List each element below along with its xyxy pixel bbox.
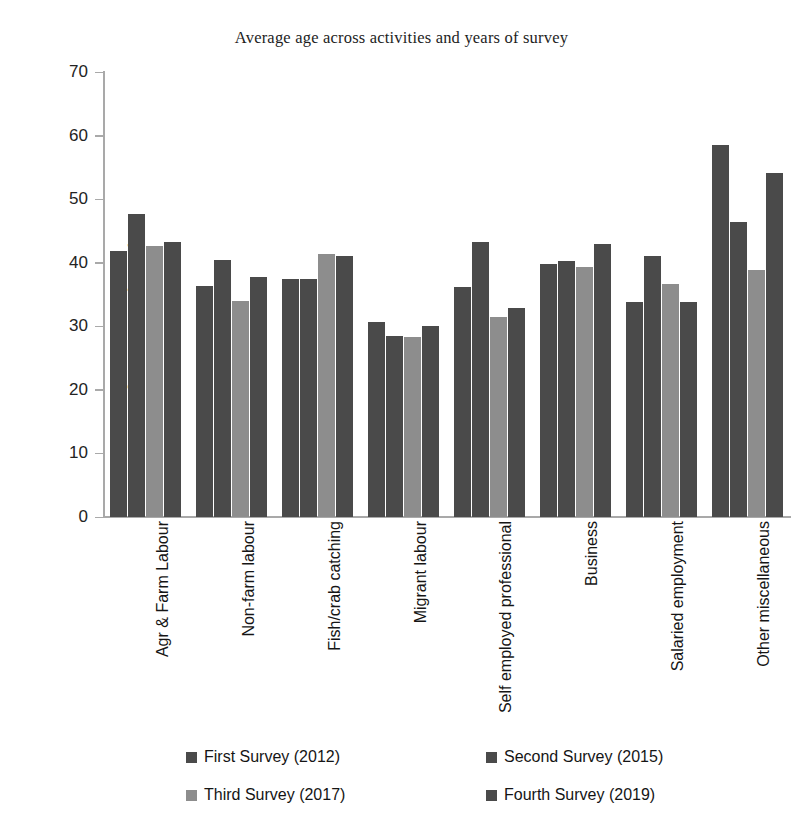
x-axis-category-label: Business <box>583 521 601 586</box>
legend-item[interactable]: Second Survey (2015) <box>486 748 663 766</box>
x-axis-label-cell: Agr & Farm Labour <box>103 521 189 721</box>
y-axis-tick-value: 60 <box>30 126 88 146</box>
bar[interactable] <box>540 264 557 517</box>
x-axis-label-cell: Salaried employment <box>618 521 704 721</box>
bar[interactable] <box>250 277 267 517</box>
y-axis-tick-value: 50 <box>30 189 88 209</box>
x-axis-label-cell: Business <box>532 521 618 721</box>
x-axis-labels: Agr & Farm LabourNon-farm labourFish/cra… <box>103 521 790 721</box>
bar[interactable] <box>336 256 353 517</box>
legend-label: First Survey (2012) <box>204 748 340 766</box>
legend-item[interactable]: Fourth Survey (2019) <box>486 786 655 804</box>
bar[interactable] <box>594 244 611 517</box>
y-axis-tick <box>95 72 103 74</box>
bar[interactable] <box>232 301 249 517</box>
y-axis-tick <box>95 262 103 264</box>
bar-group <box>275 72 361 517</box>
bar[interactable] <box>680 302 697 518</box>
bar[interactable] <box>368 322 385 517</box>
bar-group <box>704 72 790 517</box>
bar[interactable] <box>644 256 661 517</box>
y-axis-tick-value: 0 <box>30 507 88 527</box>
y-axis-tick-value: 40 <box>30 253 88 273</box>
y-axis-tick-value: 20 <box>30 380 88 400</box>
legend-swatch <box>186 752 197 763</box>
bar[interactable] <box>422 326 439 517</box>
y-axis-tick <box>95 389 103 391</box>
bar-group <box>103 72 189 517</box>
x-axis-category-label: Agr & Farm Labour <box>154 521 172 657</box>
y-axis-tick-value: 10 <box>30 443 88 463</box>
x-axis-category-label: Other miscellaneous <box>755 521 773 667</box>
bar-group <box>532 72 618 517</box>
legend-label: Second Survey (2015) <box>504 748 663 766</box>
bar[interactable] <box>472 242 489 517</box>
x-axis-category-label: Non-farm labour <box>240 521 258 637</box>
bar-group <box>189 72 275 517</box>
chart-title: Average age across activities and years … <box>0 28 803 48</box>
y-axis-tick <box>95 453 103 455</box>
y-axis-tick-value: 70 <box>30 62 88 82</box>
bar[interactable] <box>766 173 783 517</box>
x-axis-label-cell: Self employed professional <box>447 521 533 721</box>
bar[interactable] <box>196 286 213 517</box>
bar[interactable] <box>712 145 729 517</box>
bar[interactable] <box>508 308 525 517</box>
bar[interactable] <box>404 337 421 517</box>
legend-label: Fourth Survey (2019) <box>504 786 655 804</box>
bar-chart: Average age across activities and years … <box>0 0 803 836</box>
legend-item[interactable]: First Survey (2012) <box>186 748 340 766</box>
bar-group <box>618 72 704 517</box>
bar[interactable] <box>490 317 507 517</box>
y-axis-tick <box>95 326 103 328</box>
x-axis-label-cell: Fish/crab catching <box>275 521 361 721</box>
legend-item[interactable]: Third Survey (2017) <box>186 786 345 804</box>
y-axis-tick <box>95 135 103 137</box>
bar[interactable] <box>128 214 145 517</box>
x-axis-label-cell: Non-farm labour <box>189 521 275 721</box>
legend-label: Third Survey (2017) <box>204 786 345 804</box>
bar[interactable] <box>146 246 163 517</box>
x-axis-label-cell: Migrant labour <box>361 521 447 721</box>
bar[interactable] <box>110 251 127 517</box>
bar[interactable] <box>386 336 403 517</box>
bar[interactable] <box>626 302 643 518</box>
x-axis-category-label: Migrant labour <box>412 521 430 623</box>
bar[interactable] <box>748 270 765 517</box>
bar-groups <box>103 72 790 517</box>
x-axis-label-cell: Other miscellaneous <box>704 521 790 721</box>
bar[interactable] <box>214 260 231 517</box>
bar-group <box>361 72 447 517</box>
bar-group <box>447 72 533 517</box>
y-axis-tick <box>95 517 103 519</box>
legend-swatch <box>486 752 497 763</box>
bar[interactable] <box>300 279 317 517</box>
bar[interactable] <box>454 287 471 517</box>
y-axis-tick <box>95 199 103 201</box>
legend-swatch <box>186 790 197 801</box>
x-axis-category-label: Salaried employment <box>669 521 687 671</box>
chart-legend: First Survey (2012)Second Survey (2015)T… <box>168 748 708 818</box>
bar[interactable] <box>164 242 181 517</box>
bar[interactable] <box>730 222 747 517</box>
bar[interactable] <box>318 254 335 517</box>
x-axis-category-label: Fish/crab catching <box>326 521 344 651</box>
legend-swatch <box>486 790 497 801</box>
bar[interactable] <box>662 284 679 517</box>
x-axis-category-label: Self employed professional <box>497 521 515 713</box>
bar[interactable] <box>576 267 593 517</box>
bar[interactable] <box>282 279 299 517</box>
bar[interactable] <box>558 261 575 517</box>
y-axis-tick-value: 30 <box>30 316 88 336</box>
